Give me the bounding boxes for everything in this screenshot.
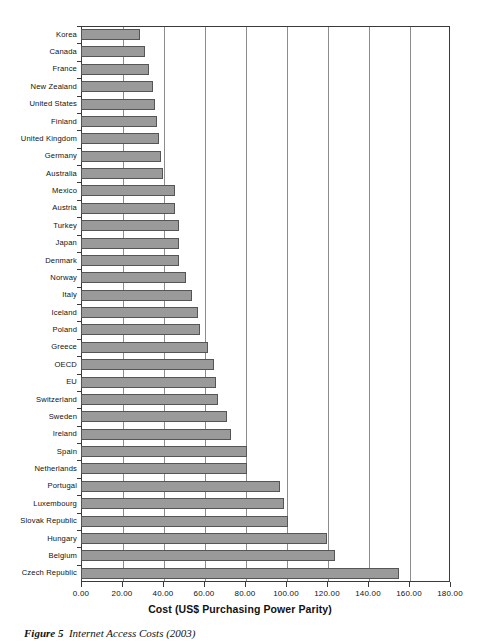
bar [81, 220, 179, 231]
y-axis-tick [77, 61, 81, 62]
bar-row [81, 43, 450, 62]
y-axis-label: Norway [0, 273, 77, 282]
y-axis-label: Ireland [0, 429, 77, 438]
x-axis-tick [409, 582, 410, 587]
y-axis-tick [77, 96, 81, 97]
bar-row [81, 391, 450, 410]
bar-row [81, 26, 450, 45]
figure-caption: Figure 5 Internet Access Costs (2003) [24, 627, 196, 639]
y-axis-label: Czech Republic [0, 568, 77, 577]
bar-row [81, 530, 450, 549]
bar [81, 498, 284, 509]
y-axis-tick [77, 26, 81, 27]
bar [81, 116, 157, 127]
y-axis-label: Austria [0, 203, 77, 212]
y-axis-label: Hungary [0, 534, 77, 543]
x-axis-tick [368, 582, 369, 587]
bar-row [81, 460, 450, 479]
y-axis-label: Greece [0, 342, 77, 351]
y-axis-label: Switzerland [0, 395, 77, 404]
y-axis-tick [77, 374, 81, 375]
y-axis-label: New Zealand [0, 82, 77, 91]
bar [81, 168, 163, 179]
bar [81, 46, 145, 57]
bar [81, 238, 179, 249]
x-axis-tick [450, 582, 451, 587]
bar-chart: KoreaCanadaFranceNew ZealandUnited State… [0, 0, 480, 600]
y-axis-label: Japan [0, 238, 77, 247]
bar [81, 64, 149, 75]
bar-row [81, 304, 450, 323]
y-axis-tick [77, 321, 81, 322]
x-axis-tick [122, 582, 123, 587]
y-axis-label: Germany [0, 151, 77, 160]
bar-row [81, 321, 450, 340]
y-axis-tick [77, 165, 81, 166]
x-axis-tick [245, 582, 246, 587]
bar-row [81, 547, 450, 566]
y-axis-tick [77, 530, 81, 531]
y-axis-tick [77, 565, 81, 566]
figure-caption-text: Internet Access Costs (2003) [69, 627, 196, 639]
x-axis-tick [286, 582, 287, 587]
y-axis-tick [77, 426, 81, 427]
bar [81, 290, 192, 301]
y-axis-tick [77, 356, 81, 357]
bar [81, 185, 175, 196]
y-axis-label: Poland [0, 325, 77, 334]
bar [81, 133, 159, 144]
bar [81, 342, 208, 353]
bar [81, 272, 186, 283]
bar-row [81, 269, 450, 288]
bar-row [81, 130, 450, 149]
bar [81, 99, 155, 110]
bar-row [81, 565, 450, 584]
bar [81, 446, 247, 457]
bar [81, 463, 247, 474]
y-axis-tick [77, 43, 81, 44]
y-axis-label: Mexico [0, 186, 77, 195]
bar-row [81, 113, 450, 132]
bar [81, 394, 218, 405]
y-axis-label: France [0, 64, 77, 73]
y-axis-tick [77, 113, 81, 114]
bar-row [81, 374, 450, 393]
bar [81, 516, 288, 527]
bar-row [81, 61, 450, 80]
bar-row [81, 513, 450, 532]
y-axis-tick [77, 408, 81, 409]
y-axis-tick [77, 130, 81, 131]
bar-row [81, 443, 450, 462]
x-axis-tick [163, 582, 164, 587]
bar [81, 203, 175, 214]
bar [81, 324, 200, 335]
y-axis-label: Belgium [0, 551, 77, 560]
y-axis-tick [77, 547, 81, 548]
figure-caption-label: Figure 5 [24, 627, 63, 639]
y-axis-tick [77, 200, 81, 201]
y-axis-label: Portugal [0, 481, 77, 490]
y-axis-tick [77, 148, 81, 149]
bar-row [81, 235, 450, 254]
bar [81, 377, 216, 388]
bar [81, 29, 140, 40]
bar-row [81, 356, 450, 375]
bar [81, 550, 335, 561]
y-axis-label: Korea [0, 30, 77, 39]
x-axis-tick [81, 582, 82, 587]
bar-row [81, 148, 450, 167]
bar [81, 533, 327, 544]
bar-row [81, 339, 450, 358]
y-axis-label: Canada [0, 47, 77, 56]
y-axis-label: United States [0, 99, 77, 108]
y-axis-label: OECD [0, 360, 77, 369]
y-axis-label: EU [0, 377, 77, 386]
y-axis-tick [77, 78, 81, 79]
y-axis-tick [77, 235, 81, 236]
figure-container: KoreaCanadaFranceNew ZealandUnited State… [0, 0, 480, 644]
y-axis-tick [77, 478, 81, 479]
bar [81, 307, 198, 318]
bar-row [81, 165, 450, 184]
y-axis-tick [77, 460, 81, 461]
x-axis-tick [327, 582, 328, 587]
